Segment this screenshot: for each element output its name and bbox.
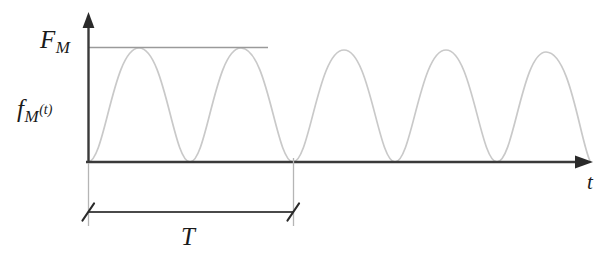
period-dimension [83,158,300,226]
waveform-series [88,48,590,162]
waveform-hump [88,48,190,162]
waveform-figure: FM fM(t) t T [0,0,608,263]
amplitude-label-base: F [40,26,55,53]
amplitude-label: FM [40,27,70,56]
signal-label-subscript: M [24,107,39,126]
signal-label-base: f [17,95,24,122]
arrow-up-icon [83,12,95,28]
arrow-right-icon [575,155,593,168]
waveform-hump [395,50,497,162]
signal-label: fM(t) [17,96,52,125]
amplitude-label-subscript: M [55,38,70,57]
time-axis-label: t [587,172,593,193]
period-label: T [181,224,195,249]
waveform-hump [293,50,395,162]
figure-canvas [0,0,608,263]
waveform-hump [190,48,293,162]
signal-label-argument: (t) [39,102,53,117]
waveform-hump [497,52,590,162]
